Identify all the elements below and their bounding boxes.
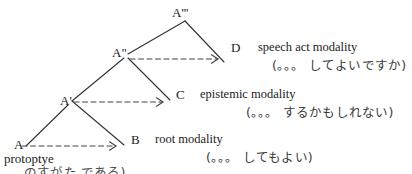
terminal-label-D: D bbox=[231, 41, 240, 54]
prototype-label: protoptye bbox=[4, 152, 54, 165]
terminal-label-B: B bbox=[131, 133, 140, 146]
branch-edges bbox=[72, 21, 224, 145]
diagram-canvas: A A' A" A''' B root modality (。。。 してもよい)… bbox=[0, 0, 412, 174]
japanese-example-speech-act-modality: (。。。 してよいですか) bbox=[272, 60, 406, 73]
gloss-speech-act-modality: speech act modality bbox=[258, 41, 357, 54]
node-label-A-prime: A' bbox=[60, 94, 72, 107]
node-label-A-triple-prime: A''' bbox=[172, 6, 188, 19]
node-label-A-double-prime: A" bbox=[112, 46, 127, 59]
clipped-bottom-line: のすがた である) bbox=[24, 167, 126, 174]
terminal-label-C: C bbox=[176, 88, 185, 101]
gloss-epistemic-modality: epistemic modality bbox=[200, 88, 295, 101]
gloss-root-modality: root modality bbox=[155, 133, 223, 146]
spine-edges bbox=[26, 21, 185, 146]
japanese-example-epistemic-modality: (。。。 するかもしれない) bbox=[246, 107, 394, 120]
japanese-example-root-modality: (。。。 してもよい) bbox=[206, 152, 313, 165]
node-label-A: A bbox=[14, 138, 23, 151]
